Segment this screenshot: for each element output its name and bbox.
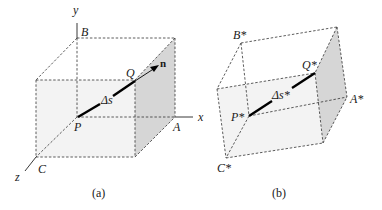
point-label-p: P (73, 120, 82, 134)
segment-label-ds: Δs (100, 93, 113, 107)
figure-b: B* Q* Δs* A* P* C* (b) (217, 27, 363, 200)
point-label-p-star: P* (230, 110, 244, 124)
point-label-b-star: B* (233, 28, 246, 42)
figure-a: y x z B Q n Δs P A C (a) (14, 3, 204, 200)
point-label-n: n (160, 57, 166, 69)
point-label-q: Q (126, 66, 135, 80)
point-label-c-star: C* (217, 161, 231, 175)
axis-label-x: x (197, 110, 204, 124)
segment-label-ds-star: Δs* (271, 88, 290, 102)
side-face-a (135, 38, 175, 157)
axis-label-y: y (72, 3, 79, 17)
point-label-c: C (38, 162, 47, 176)
point-label-a: A (172, 120, 181, 134)
deformation-diagram: y x z B Q n Δs P A C (a) (0, 0, 382, 210)
point-label-b: B (81, 25, 89, 39)
axis-label-z: z (14, 170, 20, 184)
caption-b: (b) (272, 186, 286, 200)
point-label-a-star: A* (349, 92, 363, 106)
z-axis (25, 157, 36, 171)
caption-a: (a) (92, 186, 105, 200)
point-label-q-star: Q* (302, 58, 317, 72)
